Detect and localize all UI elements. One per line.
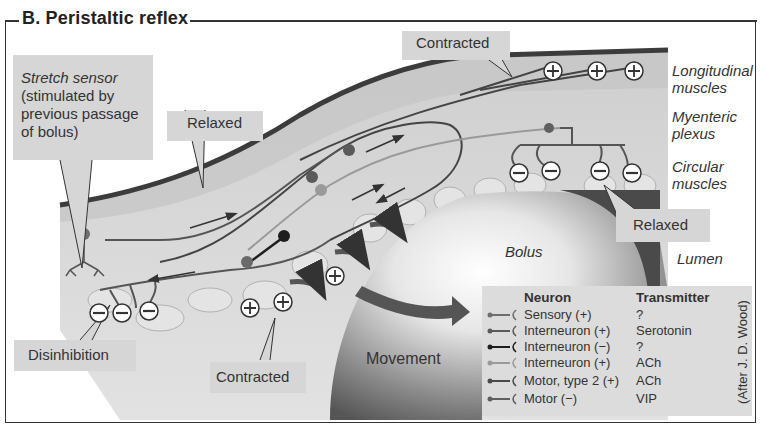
myenteric-label-line1: Myenteric [672, 108, 737, 125]
legend-transmitter: ACh [636, 373, 661, 388]
bolus-label: Bolus [505, 243, 543, 260]
legend-row: Interneuron (−) ? [486, 339, 748, 354]
legend-row: Motor, type 2 (+) ACh [486, 373, 748, 388]
interneuron-ach-symbol-icon [486, 357, 518, 369]
longitudinal-label-line1: Longitudinal [672, 62, 753, 79]
neuron-legend: Neuron Transmitter Sensory (+) ? Interne… [482, 286, 752, 416]
longitudinal-label-line2: muscles [672, 79, 753, 96]
disinhibition-callout: Disinhibition [14, 340, 136, 371]
legend-neuron-name: Motor (−) [524, 391, 577, 406]
stretch-sensor-line1: Stretch sensor [21, 69, 145, 87]
figure-credit: (After J. D. Wood) [735, 300, 750, 404]
interneuron-plus-symbol-icon [486, 325, 518, 337]
longitudinal-muscles-label: Longitudinal muscles [672, 62, 753, 96]
myenteric-plexus-label: Myenteric plexus [672, 108, 737, 142]
legend-transmitter-header: Transmitter [636, 290, 710, 305]
interneuron-minus-symbol-icon [486, 341, 518, 353]
legend-transmitter: ACh [636, 355, 661, 370]
legend-transmitter: ? [636, 339, 643, 354]
legend-row: Interneuron (+) Serotonin [486, 323, 748, 338]
legend-transmitter: ? [636, 307, 643, 322]
legend-transmitter: Serotonin [636, 323, 692, 338]
motor-type2-symbol-icon [486, 375, 518, 387]
legend-neuron-name: Interneuron (+) [524, 323, 610, 338]
contracted-top-callout: Contracted [402, 31, 510, 60]
lumen-label: Lumen [677, 250, 723, 267]
contracted-bottom-callout: Contracted [210, 362, 306, 393]
stretch-sensor-line3: previous passage [21, 105, 145, 123]
relaxed-right-callout: Relaxed [616, 209, 710, 242]
legend-neuron-name: Interneuron (+) [524, 355, 610, 370]
sensory-neuron-symbol-icon [486, 309, 518, 321]
relaxed-top-callout: Relaxed [167, 111, 263, 141]
stretch-sensor-callout: Stretch sensor (stimulated by previous p… [13, 55, 153, 160]
legend-transmitter: VIP [636, 391, 657, 406]
movement-label: Movement [366, 350, 441, 368]
stretch-sensor-line2: (stimulated by [21, 87, 145, 105]
stretch-sensor-line4: of bolus) [21, 123, 145, 141]
legend-neuron-header: Neuron [524, 290, 571, 305]
circular-label-line2: muscles [672, 175, 727, 192]
circular-muscles-label: Circular muscles [672, 158, 727, 192]
legend-row: Sensory (+) ? [486, 307, 748, 322]
myenteric-label-line2: plexus [672, 125, 737, 142]
motor-minus-symbol-icon [486, 393, 518, 405]
legend-neuron-name: Interneuron (−) [524, 339, 610, 354]
legend-neuron-name: Motor, type 2 (+) [524, 373, 619, 388]
circular-label-line1: Circular [672, 158, 727, 175]
legend-neuron-name: Sensory (+) [524, 307, 592, 322]
legend-row: Interneuron (+) ACh [486, 355, 748, 370]
legend-row: Motor (−) VIP [486, 391, 748, 406]
